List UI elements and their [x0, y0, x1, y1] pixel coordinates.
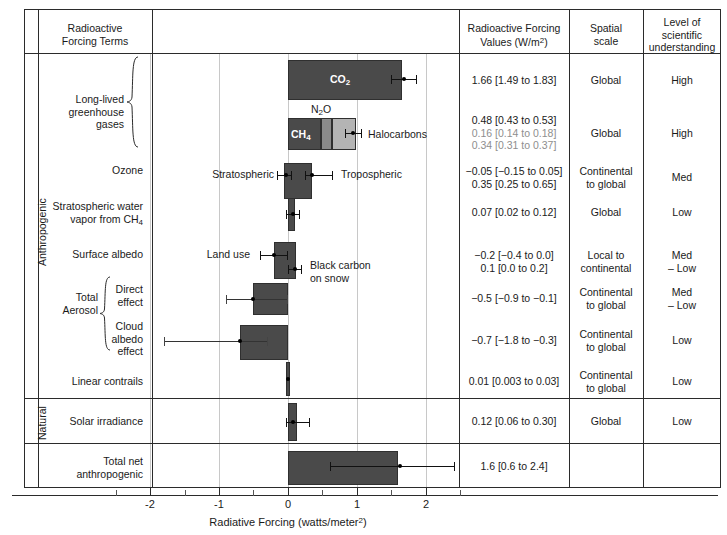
value-text-dim: 0.34 [0.31 to 0.37] [460, 139, 568, 152]
annotation-n2o: N2O [291, 103, 351, 120]
errorbar-ghg-cap-low [345, 129, 346, 138]
xtick-minor-2.5 [460, 490, 461, 496]
value-text-dim: 0.16 [0.14 to 0.18] [460, 127, 568, 140]
level-line1: Med [644, 286, 720, 299]
value-text: −0.5 [−0.9 to −0.1] [460, 292, 568, 305]
errorbar-solar-cap-high [309, 418, 310, 427]
errorbar-cloud-cap-low [164, 337, 165, 346]
xtick-label-1: 1 [337, 498, 377, 510]
errorbar-solar-line [286, 422, 310, 423]
errorbar-contrails-marker [286, 377, 290, 381]
errorbar-cloud-cap-high [267, 337, 268, 346]
header-values: Radioactive Forcing Values (W/m2) [460, 22, 568, 48]
gridline-2 [426, 53, 427, 487]
header-terms-line1: Radioactive [39, 22, 151, 35]
term-total-net-line2: anthropogenic [46, 468, 143, 481]
term-surface-albedo: Surface albedo [46, 248, 143, 261]
level-cell-8: Low [644, 415, 720, 428]
term-cloud-albedo-line1: Cloud albedo [92, 320, 143, 345]
errorbar-cloud-line [164, 341, 268, 342]
spatial-line2: to global [570, 299, 642, 312]
annotation-stratospheric: Stratospheric [198, 168, 274, 181]
spatial-line2: to global [570, 382, 642, 395]
errorbar-ozone-trop-cap-low [305, 171, 306, 180]
errorbar-direct-cap-high [287, 295, 288, 304]
errorbar-ozone-strat-marker [284, 173, 288, 177]
frame-top [24, 9, 720, 10]
errorbar-solar-marker [291, 420, 295, 424]
spatial-line2: to global [570, 178, 642, 191]
bar-label-co2: CO2 [330, 73, 350, 87]
term-long-lived-ghg: Long-lived greenhouse gases [46, 93, 124, 131]
value-text: 0.12 [0.06 to 0.30] [460, 415, 568, 428]
bar-aerosol-cloud-albedo [240, 325, 288, 360]
errorbar-ghg-marker [351, 131, 355, 135]
spatial-line1: Local to [570, 249, 642, 262]
brace-long-lived-ghg [126, 56, 140, 148]
value-text: −0.05 [−0.15 to 0.05] [460, 165, 568, 178]
xtick-label--1: -1 [199, 498, 239, 510]
xtick-major-1 [357, 488, 358, 496]
value-text: −0.2 [−0.4 to 0.0] [460, 249, 568, 262]
value-cell-6: −0.7 [−1.8 to −0.3] [460, 334, 568, 347]
value-cell-4: −0.2 [−0.4 to 0.0] 0.1 [0.0 to 0.2] [460, 249, 568, 274]
term-strat-water-line1: Stratospheric water [30, 200, 143, 213]
annotation-black-carbon: Black carbon on snow [310, 259, 402, 284]
frame-bottom [24, 487, 720, 488]
term-total-aerosol-line2: Aerosol [44, 304, 98, 317]
value-text: 0.07 [0.02 to 0.12] [460, 206, 568, 219]
spatial-line1: Continental [570, 165, 642, 178]
header-level-line1: Level of [644, 16, 720, 29]
errorbar-co2-cap-low [391, 75, 392, 84]
xtick-label-2: 2 [406, 498, 446, 510]
errorbar-totalnet-marker [398, 464, 402, 468]
annotation-tropospheric: Tropospheric [341, 168, 421, 181]
errorbar-landuse-marker [272, 253, 276, 257]
level-cell-0: High [644, 74, 720, 87]
xtick-label-0: 0 [268, 498, 308, 510]
spatial-cell-6: Continental to global [570, 328, 642, 353]
level-line1: Med [644, 249, 720, 262]
errorbar-direct-cap-low [226, 295, 227, 304]
value-text: −0.7 [−1.8 to −0.3] [460, 334, 568, 347]
annotation-land-use: Land use [196, 248, 250, 261]
term-direct-effect: Direct effect [112, 283, 143, 308]
errorbar-direct-marker [251, 297, 255, 301]
bar-ozone [284, 163, 312, 199]
spatial-cell-4: Local to continental [570, 249, 642, 274]
errorbar-swv-marker [291, 212, 295, 216]
term-total-aerosol: Total Aerosol [44, 291, 98, 316]
spatial-cell-1: Global [570, 127, 642, 140]
spatial-cell-5: Continental to global [570, 286, 642, 311]
header-level-line3: understanding [644, 41, 720, 54]
level-cell-5: Med – Low [644, 286, 720, 311]
bar-surface-albedo [274, 242, 296, 279]
term-ozone: Ozone [46, 164, 143, 177]
value-cell-3: 0.07 [0.02 to 0.12] [460, 206, 568, 219]
value-text: 1.66 [1.49 to 1.83] [460, 74, 568, 87]
term-strat-water-vapor: Stratospheric water vapor from CH4 [30, 200, 143, 229]
term-long-lived-line1: Long-lived [46, 93, 124, 106]
errorbar-ozone-strat-cap-high [291, 171, 292, 180]
spatial-cell-0: Global [570, 74, 642, 87]
xtick-major-0 [288, 488, 289, 496]
term-total-net-line1: Total net [46, 455, 143, 468]
x-axis-line [12, 495, 718, 496]
level-cell-6: Low [644, 334, 720, 347]
term-total-net-anthropogenic: Total net anthropogenic [46, 455, 143, 480]
header-level: Level of scientific understanding [644, 16, 720, 54]
spatial-cell-2: Continental to global [570, 165, 642, 190]
xtick-major-2 [426, 488, 427, 496]
value-cell-7: 0.01 [0.003 to 0.03] [460, 375, 568, 388]
value-cell-0: 1.66 [1.49 to 1.83] [460, 74, 568, 87]
errorbar-blackcarbon-cap-low [288, 265, 289, 274]
term-linear-contrails: Linear contrails [46, 375, 143, 388]
xtick-minor--2.5 [116, 490, 117, 496]
header-values-line1: Radioactive Forcing [460, 22, 568, 35]
errorbar-co2-cap-high [416, 75, 417, 84]
header-terms-line2: Forcing Terms [39, 35, 151, 48]
gridline--1 [219, 53, 220, 487]
term-total-aerosol-line1: Total [44, 291, 98, 304]
xtick-minor--1.5 [185, 490, 186, 496]
spatial-line1: Continental [570, 286, 642, 299]
